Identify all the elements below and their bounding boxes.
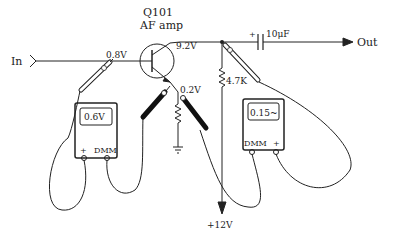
capacitor-polarity: + — [249, 30, 256, 39]
output-arrow-icon — [343, 38, 353, 46]
probe-emitter-black — [143, 86, 170, 117]
right-dmm-plus: + — [273, 139, 280, 148]
left-dmm-label: DMM — [94, 146, 117, 155]
input-connector-icon — [30, 55, 36, 67]
emitter-resistor-symbol — [175, 104, 181, 123]
collector-voltage: 9.2V — [176, 41, 197, 51]
left-dmm-lead — [107, 117, 143, 193]
resistor-label: 4.7K — [226, 76, 247, 86]
probe-emitter-resistor-black — [181, 96, 207, 129]
probe-base-white — [81, 59, 113, 90]
resistor-4k7-symbol — [219, 68, 225, 87]
probe-collector-white — [225, 45, 258, 80]
supply-arrow-icon — [218, 202, 226, 214]
transistor-ref: Q101 — [143, 6, 173, 19]
supply-label: +12V — [207, 220, 233, 230]
transistor-desc: AF amp — [139, 19, 183, 32]
right-dmm-reading: 0.15~ — [250, 108, 278, 118]
right-dmm-label: DMM — [244, 139, 267, 148]
right-plus-lead — [259, 82, 351, 188]
base-voltage: 0.8V — [106, 50, 127, 60]
left-dmm-plus: + — [80, 146, 87, 155]
capacitor-label: 10μF — [266, 29, 290, 39]
left-dmm-reading: 0.6V — [84, 112, 105, 122]
emitter-voltage: 0.2V — [180, 85, 201, 95]
circuit-diagram: Q101 AF amp In Out 0.8V 9.2V 0.2V + 10μF… — [0, 0, 393, 245]
output-label: Out — [357, 36, 378, 49]
input-label: In — [11, 55, 22, 68]
